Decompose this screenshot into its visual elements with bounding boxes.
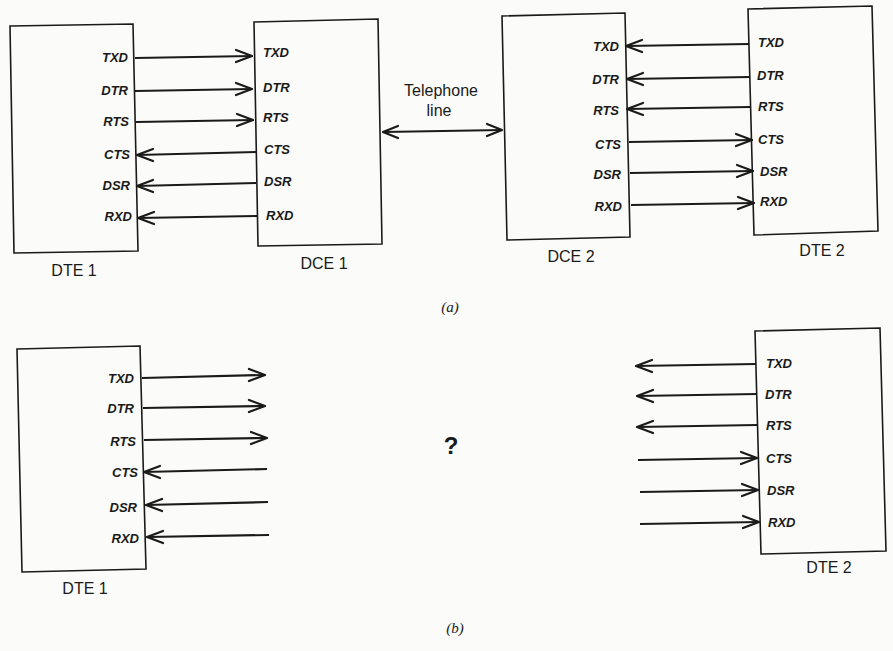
dte2-a-block: TXD DTR RTS CTS DSR RXD DTE 2 — [748, 6, 878, 259]
dte2-b-signal-dsr: DSR — [767, 483, 795, 498]
dte2-b-signal-rxd: RXD — [768, 515, 796, 530]
arrow-right-icon — [135, 50, 252, 62]
figure-label-a: (a) — [441, 299, 459, 316]
dte2-a-signal-txd: TXD — [758, 35, 785, 50]
arrow-left-icon — [636, 360, 756, 372]
dte2-a-signal-dsr: DSR — [760, 164, 788, 179]
arrow-left-icon — [144, 466, 267, 478]
arrow-left-icon — [138, 212, 257, 224]
dte1-a-signal-cts: CTS — [104, 147, 130, 162]
dce1-signal-dsr: DSR — [264, 174, 292, 189]
dte2-b-connections — [636, 360, 759, 528]
dte1-b-signal-rts: RTS — [110, 434, 136, 449]
dte1-b-signal-txd: TXD — [108, 371, 135, 386]
dce2-signal-txd: TXD — [593, 39, 620, 54]
dce2-block: TXD DTR RTS CTS DSR RXD DCE 2 — [502, 13, 630, 265]
dte2-b-signal-txd: TXD — [766, 356, 793, 371]
arrow-left-icon — [627, 103, 750, 115]
arrow-left-icon — [637, 390, 757, 402]
dte1-a-signal-rts: RTS — [103, 114, 129, 129]
dte1-a-block: TXD DTR RTS CTS DSR RXD DTE 1 — [10, 24, 138, 279]
arrow-left-icon — [626, 40, 749, 52]
dce1-signal-txd: TXD — [263, 45, 290, 60]
telephone-line-label-1: Telephone — [404, 82, 478, 99]
dce1-signal-rxd: RXD — [266, 208, 294, 223]
arrow-right-icon — [135, 83, 252, 95]
dce1-block: TXD DTR RTS CTS DSR RXD DCE 1 — [254, 19, 382, 272]
diagram-part-a: TXD DTR RTS CTS DSR RXD DTE 1 — [10, 6, 878, 316]
telephone-line-label-2: line — [427, 102, 452, 119]
dce2-signal-dsr: DSR — [594, 167, 622, 182]
double-arrow-icon — [383, 124, 502, 138]
dte2-b-signal-cts: CTS — [766, 451, 792, 466]
dce1-caption: DCE 1 — [300, 255, 347, 272]
dte1-b-connections — [142, 369, 269, 543]
dte1-a-signal-rxd: RXD — [105, 209, 133, 224]
dte2-b-caption: DTE 2 — [806, 559, 851, 576]
arrow-left-icon — [137, 180, 256, 192]
dce2-signal-cts: CTS — [595, 137, 621, 152]
arrow-right-icon — [640, 516, 759, 528]
dte1-a-signal-txd: TXD — [102, 50, 129, 65]
dte1-b-signal-dtr: DTR — [107, 401, 134, 416]
dte2-a-caption: DTE 2 — [799, 242, 844, 259]
arrow-left-icon — [146, 499, 268, 511]
arrow-right-icon — [640, 484, 758, 496]
dte2-dce2-connections — [626, 40, 754, 209]
dte1-a-caption: DTE 1 — [51, 262, 96, 279]
arrow-left-icon — [147, 531, 269, 543]
dte2-b-signal-rts: RTS — [766, 418, 792, 433]
dte2-a-signal-rxd: RXD — [760, 194, 788, 209]
dce2-signal-rxd: RXD — [595, 199, 623, 214]
dte1-b-block: TXD DTR RTS CTS DSR RXD DTE 1 — [17, 346, 146, 597]
dte2-b-block: TXD DTR RTS CTS DSR RXD DTE 2 — [755, 328, 886, 576]
dte1-a-signal-dsr: DSR — [103, 178, 131, 193]
arrow-right-icon — [638, 452, 757, 464]
dce2-signal-rts: RTS — [593, 103, 619, 118]
dte1-b-caption: DTE 1 — [62, 580, 107, 597]
arrow-left-icon — [627, 73, 750, 85]
diagram-part-b: TXD DTR RTS CTS DSR RXD DTE 1 — [17, 328, 886, 637]
arrow-right-icon — [144, 432, 267, 444]
dce1-signal-cts: CTS — [264, 142, 290, 157]
dte2-a-signal-cts: CTS — [758, 132, 784, 147]
question-mark: ? — [444, 432, 459, 459]
dte2-b-signal-dtr: DTR — [765, 387, 792, 402]
dte1-b-signal-cts: CTS — [112, 465, 138, 480]
dte1-a-signal-dtr: DTR — [101, 83, 128, 98]
arrow-right-icon — [631, 197, 754, 209]
arrow-right-icon — [629, 134, 752, 146]
telephone-line: Telephone line — [383, 82, 502, 138]
dce2-signal-dtr: DTR — [592, 72, 619, 87]
dte2-a-signal-rts: RTS — [758, 99, 784, 114]
arrow-right-icon — [142, 369, 265, 381]
dte2-a-signal-dtr: DTR — [757, 68, 784, 83]
figure-label-b: (b) — [446, 620, 464, 637]
dce1-signal-dtr: DTR — [263, 80, 290, 95]
arrow-left-icon — [637, 421, 757, 433]
arrow-right-icon — [630, 165, 753, 177]
dte1-b-signal-rxd: RXD — [112, 531, 140, 546]
arrow-right-icon — [136, 114, 253, 126]
dce2-caption: DCE 2 — [547, 248, 594, 265]
arrow-left-icon — [137, 149, 256, 161]
dte1-dce1-connections — [135, 50, 257, 224]
dte1-b-signal-dsr: DSR — [110, 500, 138, 515]
arrow-right-icon — [143, 400, 265, 412]
dce1-signal-rts: RTS — [263, 110, 289, 125]
